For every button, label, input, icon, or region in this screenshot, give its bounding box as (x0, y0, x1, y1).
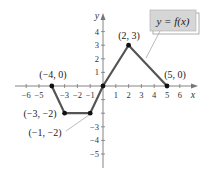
data-point (88, 111, 93, 116)
x-tick-label: −3 (60, 90, 69, 100)
x-axis-arrow-icon (191, 84, 198, 89)
x-tick-label: −5 (34, 90, 43, 100)
point-label: (5, 0) (164, 69, 186, 81)
x-axis-label: x (190, 89, 196, 100)
point-label: (−4, 0) (39, 69, 66, 81)
data-point (165, 84, 170, 89)
data-point (62, 111, 67, 116)
data-points (49, 43, 169, 116)
x-axis: −6 −5 −3 −2 −1 1 2 3 4 5 6 x (15, 84, 198, 101)
function-leader-line (146, 31, 160, 58)
y-tick-label: 4 (95, 27, 100, 37)
y-axis-arrow-icon (101, 13, 106, 20)
y-tick-label: 3 (95, 40, 99, 50)
x-tick-label: 1 (114, 90, 118, 100)
x-tick-label: 4 (152, 90, 157, 100)
y-tick-label: 2 (95, 54, 99, 64)
y-tick-label: −5 (90, 149, 99, 159)
data-point (49, 84, 54, 89)
x-tick-label: −2 (73, 90, 82, 100)
y-axis-label: y (94, 10, 100, 21)
function-graph: y = f(x) −6 −5 −3 −2 −1 1 2 3 4 5 6 (0, 0, 210, 172)
x-tick-label: 3 (139, 90, 143, 100)
point-label: (−1, −2) (29, 127, 62, 139)
y-axis: 4 3 2 1 −3 −4 −5 y (90, 10, 106, 168)
x-tick-label: 5 (165, 90, 169, 100)
point-leader-line (66, 115, 89, 131)
y-tick-label: 1 (95, 67, 99, 77)
data-point (126, 43, 131, 48)
function-label: y = f(x) (155, 15, 189, 28)
y-tick-label: −4 (90, 135, 100, 145)
data-point (101, 84, 106, 89)
x-tick-label: −1 (86, 90, 95, 100)
function-line (52, 45, 167, 113)
y-tick-label: −3 (90, 122, 99, 132)
function-label-box: y = f(x) (150, 10, 199, 34)
point-label: (−3, −2) (24, 108, 57, 120)
point-label: (2, 3) (118, 30, 140, 42)
x-tick-label: 2 (126, 90, 130, 100)
x-tick-label: 6 (178, 90, 182, 100)
x-tick-label: −6 (22, 90, 31, 100)
